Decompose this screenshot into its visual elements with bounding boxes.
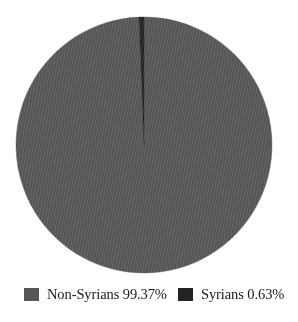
- legend-item-syrians[interactable]: Syrians 0.63%: [178, 286, 284, 303]
- legend-label-non-syrians: Non-Syrians 99.37%: [47, 286, 167, 303]
- chart-legend: Non-Syrians 99.37% Syrians 0.63%: [0, 286, 298, 312]
- legend-label-syrians: Syrians 0.63%: [201, 286, 284, 303]
- pie-plot-area: [0, 0, 298, 280]
- legend-swatch-syrians: [178, 288, 193, 301]
- legend-swatch-non-syrians: [24, 288, 39, 301]
- legend-item-non-syrians[interactable]: Non-Syrians 99.37%: [24, 286, 167, 303]
- pie-chart-figure: Non-Syrians 99.37% Syrians 0.63%: [0, 0, 298, 322]
- pie-svg: [0, 0, 298, 280]
- pie-slice-group: [16, 17, 272, 273]
